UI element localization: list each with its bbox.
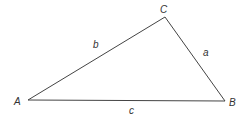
vertex-label-c: C bbox=[160, 4, 168, 15]
side-label-c: c bbox=[129, 105, 134, 116]
vertex-label-b: B bbox=[229, 97, 236, 108]
side-label-b: b bbox=[93, 39, 99, 50]
triangle-diagram: A B C a b c bbox=[0, 0, 247, 123]
side-label-a: a bbox=[203, 47, 209, 58]
triangle-abc bbox=[28, 17, 225, 101]
vertex-label-a: A bbox=[13, 96, 21, 107]
